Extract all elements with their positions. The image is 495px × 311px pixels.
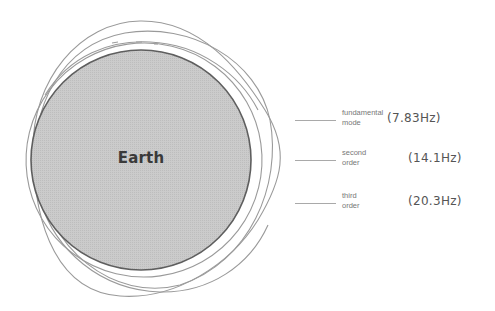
- legend-frequency: (7.83Hz): [387, 111, 441, 125]
- legend-line-swatch: [295, 120, 336, 121]
- legend-name-line2: order: [342, 201, 394, 211]
- legend-item-fundamental: fundamental mode (7.83Hz): [295, 108, 495, 134]
- legend-line-swatch: [295, 203, 336, 204]
- legend-frequency: (20.3Hz): [408, 194, 462, 208]
- schumann-resonance-diagram: Earth fundamental mode (7.83Hz) second o…: [0, 0, 495, 311]
- legend-mode-name: third order: [342, 191, 394, 211]
- legend-frequency: (14.1Hz): [408, 151, 462, 165]
- legend-line-swatch: [295, 160, 336, 161]
- legend-mode-name: second order: [342, 148, 394, 168]
- legend-item-third-order: third order (20.3Hz): [295, 191, 495, 217]
- legend-name-line1: second: [342, 148, 394, 158]
- earth-label: Earth: [104, 149, 178, 167]
- legend-item-second-order: second order (14.1Hz): [295, 148, 495, 174]
- legend-name-line1: third: [342, 191, 394, 201]
- legend-name-line2: order: [342, 158, 394, 168]
